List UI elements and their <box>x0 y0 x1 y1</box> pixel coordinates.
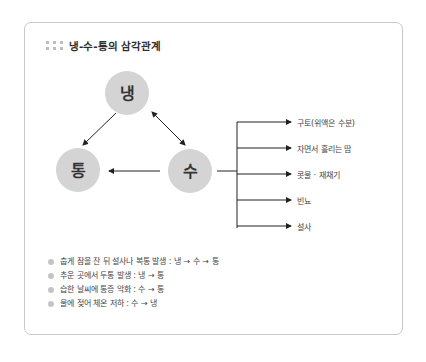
arrow-naeng-su-bidirectional <box>152 112 185 145</box>
branch-label-diarrhea: 설사 <box>297 221 311 232</box>
bullet-item: 습한 날씨에 통증 악화 : 수 → 통 <box>48 283 219 297</box>
svg-text:수: 수 <box>183 162 198 181</box>
branch-label-vomiting: 구토(위액은 수분) <box>297 117 355 128</box>
bullet-list: 춥게 잠을 잔 뒤 설사나 복통 발생 : 냉 → 수 → 통 추운 곳에서 두… <box>48 255 219 311</box>
branch-label-runny-nose: 콧물 · 재채기 <box>297 169 340 180</box>
branch-label-frequent-urination: 빈뇨 <box>297 195 311 206</box>
bullet-item: 춥게 잠을 잔 뒤 설사나 복통 발생 : 냉 → 수 → 통 <box>48 255 219 269</box>
bullet-item: 물에 젖어 체온 저하 : 수 → 냉 <box>48 297 219 311</box>
node-naeng: 냉 <box>105 71 149 115</box>
svg-text:냉: 냉 <box>120 84 135 103</box>
node-tong: 통 <box>56 148 100 192</box>
branch-label-night-sweat: 자면서 흘리는 땀 <box>297 143 351 154</box>
bullet-item: 추운 곳에서 두통 발생 : 냉 → 통 <box>48 269 219 283</box>
svg-text:통: 통 <box>71 161 86 180</box>
arrow-naeng-to-tong <box>83 113 116 145</box>
node-su: 수 <box>168 149 212 193</box>
